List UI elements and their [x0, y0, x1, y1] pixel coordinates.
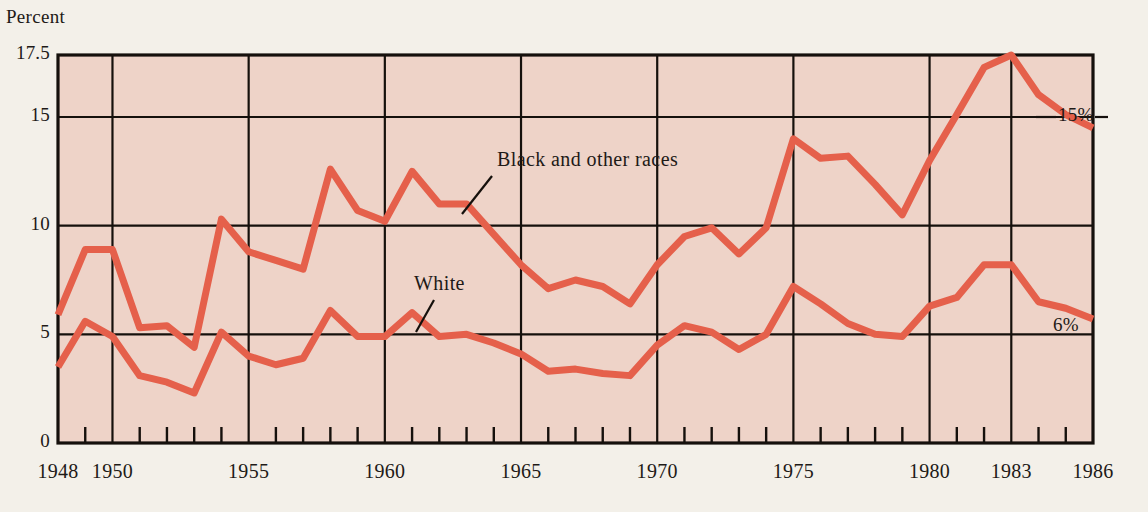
annotation-white: White [414, 272, 465, 295]
x-axis-tick-label: 1986 [1053, 460, 1133, 483]
annotation-black-and-other-races: Black and other races [497, 148, 678, 171]
y-axis-tick-label: 0 [0, 430, 50, 452]
x-axis-tick-label: 1970 [617, 460, 697, 483]
y-axis-tick-label: 5 [0, 321, 50, 343]
chart-figure: Percent 05101517.51948195019551960196519… [0, 0, 1148, 512]
x-axis-tick-label: 1980 [890, 460, 970, 483]
y-axis-tick-label: 10 [0, 213, 50, 235]
x-axis-tick-label: 1960 [345, 460, 425, 483]
y-axis-tick-label: 17.5 [0, 42, 50, 64]
x-axis-tick-label: 1955 [209, 460, 289, 483]
end-label-15-percent: 15% [1058, 104, 1094, 126]
x-axis-tick-label: 1975 [753, 460, 833, 483]
x-axis-tick-label: 1965 [481, 460, 561, 483]
y-axis-tick-label: 15 [0, 104, 50, 126]
chart-plot-area [0, 0, 1148, 512]
end-label-6-percent: 6% [1053, 314, 1079, 336]
x-axis-tick-label: 1950 [72, 460, 152, 483]
x-axis-tick-label: 1983 [971, 460, 1051, 483]
